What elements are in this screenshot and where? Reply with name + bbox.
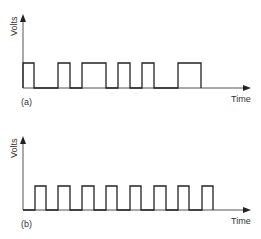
panel-label: (a) <box>21 97 32 107</box>
y-axis-label: Volts <box>9 16 19 36</box>
x-axis-label: Time <box>231 94 251 104</box>
waveform-b <box>0 120 261 239</box>
x-axis-label: Time <box>231 216 251 226</box>
panel-b: Volts Time (b) <box>0 120 261 239</box>
x-arrow-icon <box>243 207 251 213</box>
panel-label: (b) <box>21 219 32 229</box>
waveform-a <box>0 0 261 120</box>
y-axis-label: Volts <box>9 138 19 158</box>
y-arrow-icon <box>20 14 26 22</box>
y-arrow-icon <box>20 136 26 144</box>
x-arrow-icon <box>243 85 251 91</box>
panel-a: Volts Time (a) <box>0 0 261 120</box>
